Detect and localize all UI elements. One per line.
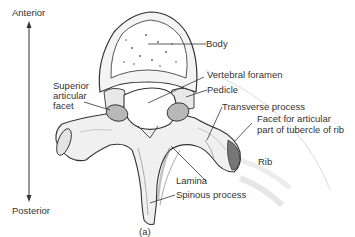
figure-caption: (a) bbox=[139, 226, 151, 237]
label-pedicle: Pedicle bbox=[207, 84, 238, 95]
label-superior-articular-facet-3: facet bbox=[53, 100, 74, 111]
label-rib: Rib bbox=[258, 156, 272, 167]
label-facet-tubercle-1: Facet for articular bbox=[257, 113, 331, 124]
label-facet-tubercle-2: part of tubercle of rib bbox=[257, 124, 344, 135]
leader-facet-tubercle bbox=[234, 123, 252, 142]
posterior-label: Posterior bbox=[12, 205, 50, 216]
vertebra-diagram: Anterior Posterior Body Superior articul… bbox=[0, 0, 355, 237]
label-lamina: Lamina bbox=[176, 175, 207, 186]
label-spinous-process: Spinous process bbox=[176, 189, 246, 200]
label-transverse-process: Transverse process bbox=[222, 101, 305, 112]
label-vertebral-foramen: Vertebral foramen bbox=[207, 69, 283, 80]
label-body: Body bbox=[206, 38, 228, 49]
vertebral-body bbox=[99, 12, 197, 92]
anterior-label: Anterior bbox=[12, 7, 45, 18]
orientation-arrow bbox=[27, 21, 32, 202]
